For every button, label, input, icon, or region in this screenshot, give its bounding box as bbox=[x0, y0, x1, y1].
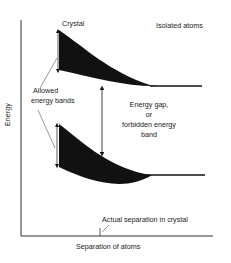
x-axis-label: Separation of atoms bbox=[76, 243, 140, 251]
upper-allowed-band bbox=[59, 30, 157, 86]
allowed-bands-line-2: energy bands bbox=[31, 97, 75, 105]
gap-line-2: or bbox=[106, 111, 192, 119]
allowed-energy-bands-label: Allowed energy bands bbox=[31, 87, 75, 105]
actual-separation-label: Actual separation in crystal bbox=[102, 216, 188, 224]
leader-line-upper-band bbox=[40, 58, 57, 88]
energy-gap-label: Energy gap, or forbidden energy band bbox=[106, 101, 192, 139]
actual-separation-leader bbox=[102, 225, 109, 232]
gap-line-3: forbidden energy bbox=[106, 121, 192, 129]
gap-line-4: band bbox=[106, 131, 192, 139]
y-axis-label: Energy bbox=[3, 103, 12, 126]
isolated-atoms-label: Isolated atoms bbox=[156, 22, 203, 30]
allowed-bands-line-1: Allowed bbox=[31, 87, 75, 95]
crystal-label: Crystal bbox=[62, 20, 84, 28]
leader-line-lower-band bbox=[38, 110, 55, 148]
gap-line-1: Energy gap, bbox=[106, 101, 192, 109]
energy-band-diagram: Crystal Isolated atoms Allowed energy ba… bbox=[0, 0, 231, 263]
